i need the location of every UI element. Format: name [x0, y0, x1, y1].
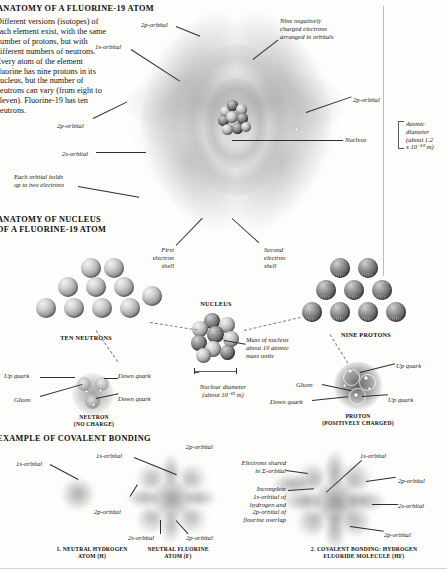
fluorine-atom-illustration — [120, 8, 350, 233]
label-neutron-down-quark-2: Down quark — [118, 395, 151, 403]
caption-molecule-2: FLUORIDE MOLECULE (HF) — [280, 553, 447, 560]
label-proton-up-quark-2: Up quark — [388, 396, 413, 404]
bracket-tick-left — [194, 368, 195, 374]
neutron-particle — [72, 373, 114, 415]
dash-proton-detail — [330, 334, 349, 363]
label-shared-electrons: Electrons shared in Σ-orbital — [214, 459, 286, 475]
bottom-rule — [0, 568, 447, 569]
label-mass-of-nucleus: Mass of nucleus about 19 atomic mass uni… — [246, 336, 318, 359]
dash-protons-to-nucleus — [244, 317, 301, 331]
caption-proton-1: PROTON — [312, 413, 404, 420]
label-atomic-diameter: Atomic diameter (about 1.2 x 10⁻¹⁰ m) — [406, 120, 446, 151]
label-2s-orbital-left: 2s-orbital — [62, 150, 88, 158]
column-divider — [383, 6, 384, 276]
leader-molecule-2s-right — [372, 504, 398, 505]
label-proton-down-quark: Down quark — [270, 398, 303, 406]
caption-fluorine-1: NEUTRAL FLUORINE — [126, 546, 230, 553]
label-proton-up-quark-1: Up quark — [396, 362, 421, 370]
label-2p-orbital-right: 2p-orbital — [353, 96, 380, 104]
atom-nucleus-cluster — [218, 100, 254, 140]
nine-protons-cluster — [296, 258, 436, 328]
atomic-diameter-bracket — [398, 121, 399, 149]
label-neutron-up-quark: Up quark — [4, 372, 29, 380]
caption-neutron-1: NEUTRON — [48, 414, 140, 421]
electron-speck — [295, 128, 298, 131]
caption-neutron-2: (NO CHARGE) — [48, 421, 140, 428]
label-molecule-2p-bottom: 2p-orbital — [384, 531, 411, 539]
section-heading-nucleus: ANATOMY OF NUCLEUS OF A FLUORINE-19 ATOM — [0, 215, 127, 234]
label-molecule-1s: 1s-orbital — [360, 452, 386, 460]
label-2p-orbital-top: 2p-orbital — [141, 21, 168, 29]
label-molecule-2s-right: 2s-orbital — [398, 502, 424, 510]
ten-neutrons-cluster — [28, 258, 168, 328]
caption-molecule-1: 2. COVALENT BONDING: HYDROGEN — [280, 546, 447, 553]
hf-molecule-illustration — [286, 452, 382, 548]
label-fluorine-1s: 1s-orbital — [96, 452, 122, 460]
combined-nucleus-cluster — [190, 313, 244, 367]
caption-fluorine-2: ATOM (F) — [126, 553, 230, 560]
label-fluorine-2s: 2s-orbital — [128, 534, 154, 542]
label-2p-orbital-left: 2p-orbital — [57, 122, 84, 130]
leader-neutron-down-1 — [104, 378, 118, 379]
section-heading-covalent: EXAMPLE OF COVALENT BONDING — [0, 434, 197, 444]
label-molecule-2p-right: 2p-orbital — [398, 477, 425, 485]
nuclear-diameter-bracket — [194, 371, 236, 372]
caption-nucleus: NUCLEUS — [176, 300, 256, 307]
hydrogen-atom-illustration — [62, 478, 94, 510]
leader-nucleus-right — [232, 140, 343, 141]
label-proton-gluon: Gluon — [296, 381, 312, 389]
label-electrons-note: Nine negatively charged electrons arrang… — [280, 17, 364, 40]
label-neutron-gluon: Gluon — [14, 396, 30, 404]
intro-paragraph: Different versions (isotopes) of each el… — [0, 17, 108, 116]
fluorine-atom-covalent-illustration — [128, 455, 214, 541]
label-two-electrons: Each orbital holds up to two electrons — [14, 173, 98, 189]
caption-ten-neutrons: TEN NEUTRONS — [36, 334, 136, 341]
label-overlap-note: Incomplete 1s-orbital of hydrogen and 2p… — [212, 485, 286, 524]
label-fluorine-2p-top: 2p-orbital — [186, 443, 213, 451]
label-fluorine-2p: 2p-orbital — [94, 508, 121, 516]
label-hydrogen-1s: 1s-orbital — [16, 460, 42, 468]
leader-2s-left — [96, 152, 146, 153]
label-nuclear-diameter: Nuclear diameter (about 10⁻¹⁵ m) — [186, 383, 260, 399]
label-nucleus-right: Nucleus — [345, 136, 366, 144]
label-1s-orbital-top: 1s-orbital — [95, 43, 121, 51]
leader-neutron-up-quark — [40, 377, 75, 378]
label-neutron-down-quark-1: Down quark — [118, 372, 151, 380]
leader-fluorine-2s — [160, 520, 161, 534]
caption-proton-2: (POSITIVELY CHARGED) — [300, 420, 416, 427]
bracket-tick-right — [236, 368, 237, 374]
diagram-page: ANATOMY OF A FLUORINE-19 ATOM Different … — [0, 0, 447, 573]
label-fluorine-2p-b: 2p-orbital — [186, 534, 213, 542]
